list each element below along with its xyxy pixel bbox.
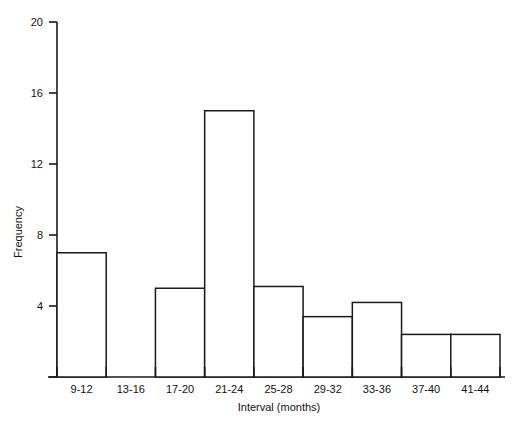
x-tick-label: 13-16 bbox=[117, 383, 145, 395]
x-tick-label: 29-32 bbox=[314, 383, 342, 395]
histogram-bar bbox=[254, 286, 303, 377]
histogram-bar bbox=[57, 253, 106, 377]
histogram-bar bbox=[352, 302, 401, 377]
y-tick-label: 16 bbox=[31, 87, 43, 99]
y-tick-label: 12 bbox=[31, 158, 43, 170]
x-tick-label: 33-36 bbox=[363, 383, 391, 395]
chart-canvas: 20 16 12 8 4 Frequency 9-1213-1617-2021-… bbox=[0, 0, 514, 429]
x-tick-label: 41-44 bbox=[461, 383, 489, 395]
histogram-bar bbox=[402, 334, 451, 377]
histogram-chart: 20 16 12 8 4 Frequency 9-1213-1617-2021-… bbox=[0, 0, 514, 429]
histogram-bar bbox=[451, 334, 500, 377]
histogram-bar bbox=[155, 288, 204, 377]
histogram-bar bbox=[205, 111, 254, 377]
y-tick-labels: 20 16 12 8 4 bbox=[31, 16, 43, 312]
x-tick-label: 9-12 bbox=[71, 383, 93, 395]
y-tick-marks bbox=[49, 22, 57, 377]
x-tick-label: 21-24 bbox=[215, 383, 243, 395]
histogram-bar bbox=[303, 317, 352, 377]
bars-group bbox=[57, 111, 500, 377]
y-axis-title: Frequency bbox=[12, 206, 24, 258]
x-tick-labels: 9-1213-1617-2021-2425-2829-3233-3637-404… bbox=[71, 383, 490, 395]
x-axis-title: Interval (months) bbox=[238, 401, 321, 413]
y-tick-label: 20 bbox=[31, 16, 43, 28]
x-tick-label: 37-40 bbox=[412, 383, 440, 395]
y-tick-label: 8 bbox=[37, 229, 43, 241]
y-tick-label: 4 bbox=[37, 300, 43, 312]
x-tick-label: 25-28 bbox=[264, 383, 292, 395]
x-tick-label: 17-20 bbox=[166, 383, 194, 395]
